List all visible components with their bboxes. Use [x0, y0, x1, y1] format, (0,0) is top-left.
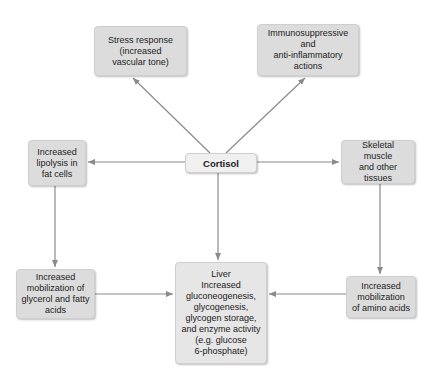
node-immunosuppressive: Immunosuppressive and anti-inflammatory … — [257, 24, 359, 76]
node-stress-response: Stress response (increased vascular tone… — [94, 26, 187, 76]
node-cortisol: Cortisol — [185, 153, 257, 173]
arrow-cortisol-to-immuno — [226, 78, 305, 153]
node-glycerol-fatty-acids: Increased mobilization of glycerol and f… — [16, 269, 95, 319]
node-lipolysis: Increased lipolysis in fat cells — [28, 140, 86, 186]
node-skeletal-muscle: Skeletal muscle and other tissues — [341, 140, 415, 184]
node-amino-acids: Increased mobilization of amino acids — [346, 276, 416, 318]
node-liver: Liver Increased gluconeogenesis, glycoge… — [175, 262, 267, 364]
arrow-cortisol-to-stress — [133, 78, 210, 153]
